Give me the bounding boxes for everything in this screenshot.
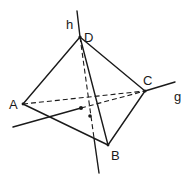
line-h-hidden <box>80 37 94 138</box>
label-C: C <box>143 73 152 88</box>
label-B: B <box>111 148 120 163</box>
line-h-top <box>77 11 80 37</box>
vertex-B-dot <box>107 144 110 147</box>
label-g: g <box>174 89 181 104</box>
label-h: h <box>66 17 73 32</box>
label-A: A <box>9 97 18 112</box>
edge-DC <box>80 37 145 91</box>
label-D: D <box>84 30 93 45</box>
edge-BA <box>23 104 108 145</box>
point-on-h <box>88 114 92 118</box>
point-on-g <box>79 106 83 110</box>
line-g-left <box>13 108 81 127</box>
edge-DB <box>80 37 108 145</box>
line-h-bottom <box>94 138 99 173</box>
vertex-D-dot <box>78 35 81 38</box>
edge-AD <box>23 37 80 104</box>
vertex-A-dot <box>22 103 25 106</box>
tetrahedron-diagram: h D C g A B <box>0 0 189 182</box>
edge-AC-hidden <box>23 91 145 104</box>
vertex-C-dot <box>143 89 146 92</box>
